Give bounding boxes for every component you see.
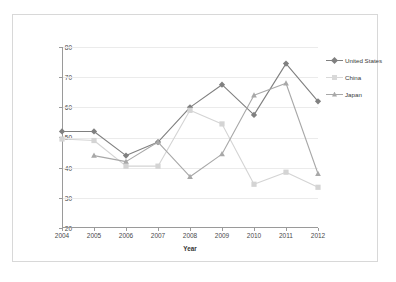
x-tick-label: 2007 [143, 232, 173, 239]
x-tick-label: 2010 [239, 232, 269, 239]
data-point-marker [187, 108, 192, 113]
data-point-marker [283, 80, 289, 85]
series-lines [62, 47, 318, 228]
legend-swatch-china [326, 74, 343, 82]
x-tick-mark [190, 228, 191, 231]
x-tick-label: 2005 [79, 232, 109, 239]
x-tick-label: 2008 [175, 232, 205, 239]
legend-item-japan[interactable]: Japan [326, 86, 392, 103]
legend-label: China [345, 74, 361, 81]
x-tick-mark [126, 228, 127, 231]
chart-legend: United States China Japan [326, 52, 392, 103]
x-axis-title: Year [62, 245, 318, 252]
data-point-marker [283, 170, 288, 175]
x-tick-mark [254, 228, 255, 231]
data-point-marker [91, 153, 97, 158]
legend-item-china[interactable]: China [326, 69, 392, 86]
data-point-marker [91, 138, 96, 143]
legend-label: United States [345, 57, 382, 64]
x-tick-label: 2004 [47, 232, 77, 239]
legend-swatch-united-states [326, 57, 343, 65]
x-tick-label: 2011 [271, 232, 301, 239]
x-tick-mark [318, 228, 319, 231]
data-point-marker [123, 164, 128, 169]
x-tick-label: 2006 [111, 232, 141, 239]
x-tick-label: 2009 [207, 232, 237, 239]
data-point-marker [251, 182, 256, 187]
x-tick-mark [286, 228, 287, 231]
data-point-marker [315, 185, 320, 190]
x-tick-mark [94, 228, 95, 231]
data-point-marker [155, 164, 160, 169]
chart-figure: Percentage of respondents with favorable… [0, 0, 396, 282]
data-point-marker [219, 151, 225, 156]
x-tick-mark [222, 228, 223, 231]
legend-swatch-japan [326, 91, 343, 99]
x-tick-label: 2012 [303, 232, 333, 239]
x-tick-mark [62, 228, 63, 231]
plot-area [62, 47, 318, 228]
legend-item-united-states[interactable]: United States [326, 52, 392, 69]
data-point-marker [59, 136, 64, 141]
x-tick-mark [158, 228, 159, 231]
legend-label: Japan [345, 91, 362, 98]
data-point-marker [219, 121, 224, 126]
